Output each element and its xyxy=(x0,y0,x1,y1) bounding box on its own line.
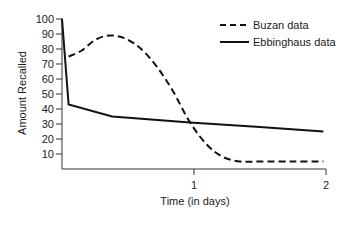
y-tick-label: 100 xyxy=(36,13,54,25)
y-tick-label: 20 xyxy=(42,133,54,145)
y-tick-label: 90 xyxy=(42,28,54,40)
y-tick-label: 70 xyxy=(42,58,54,70)
x-tick-label: 1 xyxy=(191,179,197,191)
y-tick-label: 10 xyxy=(42,148,54,160)
x-axis: 12 xyxy=(62,169,329,191)
y-tick-label: 50 xyxy=(42,88,54,100)
y-axis-label: Amount Recalled xyxy=(16,51,28,135)
buzan-data-line xyxy=(69,35,324,161)
y-axis: 102030405060708090100 xyxy=(36,13,62,169)
y-tick-label: 40 xyxy=(42,103,54,115)
y-tick-label: 60 xyxy=(42,73,54,85)
legend-label-buzan: Buzan data xyxy=(253,19,310,31)
x-axis-label: Time (in days) xyxy=(160,195,229,207)
legend-label-ebbinghaus: Ebbinghaus data xyxy=(253,36,336,48)
forgetting-curve-chart: 102030405060708090100 12 Amount Recalled… xyxy=(0,0,344,225)
x-tick-label: 2 xyxy=(323,179,329,191)
y-tick-label: 30 xyxy=(42,118,54,130)
legend: Buzan data Ebbinghaus data xyxy=(220,19,336,48)
y-tick-label: 80 xyxy=(42,43,54,55)
